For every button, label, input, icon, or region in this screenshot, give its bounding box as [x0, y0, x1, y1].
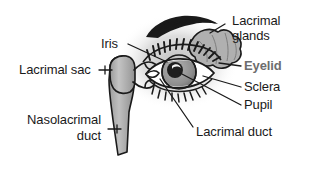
label-nasolacrimal-duct-line2: duct	[16, 129, 101, 143]
eye-anatomy-figure: Lacrimal glands Eyelid Sclera Pupil Iris…	[0, 0, 328, 170]
label-lacrimal-glands-line1: Lacrimal	[232, 14, 280, 28]
label-pupil: Pupil	[244, 98, 272, 112]
label-nasolacrimal-duct-line1: Nasolacrimal	[16, 113, 101, 127]
label-lacrimal-sac: Lacrimal sac	[19, 63, 91, 77]
label-lacrimal-glands-line2: glands	[232, 29, 270, 43]
lacrimal-caruncle	[146, 71, 159, 77]
lacrimal-sac-shape	[110, 56, 135, 94]
label-sclera: Sclera	[244, 80, 280, 94]
label-lacrimal-duct: Lacrimal duct	[196, 125, 272, 139]
label-eyelid: Eyelid	[244, 59, 282, 73]
label-iris: Iris	[101, 37, 118, 51]
